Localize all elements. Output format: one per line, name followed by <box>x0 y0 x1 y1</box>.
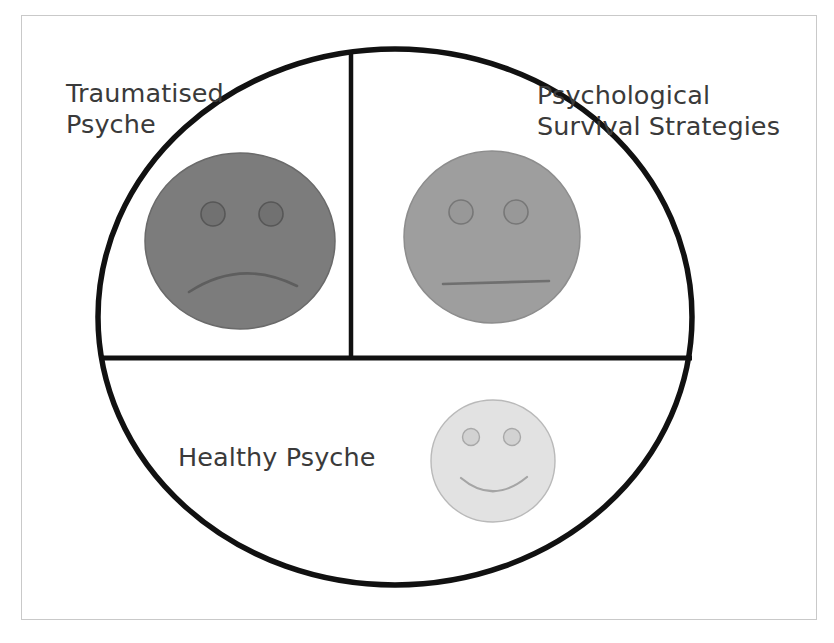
neutral-face <box>404 151 580 323</box>
sad-face-right-eye <box>259 202 283 226</box>
happy-face-head <box>431 400 555 522</box>
label-traumatised-psyche-line1: Traumatised <box>66 78 224 109</box>
happy-face <box>431 400 555 522</box>
label-traumatised-psyche: Traumatised Psyche <box>66 78 224 140</box>
label-psychological-survival-strategies-line2: Survival Strategies <box>537 111 780 142</box>
label-healthy-psyche-line1: Healthy Psyche <box>178 442 376 473</box>
happy-face-left-eye <box>463 429 480 446</box>
neutral-face-left-eye <box>449 200 473 224</box>
label-traumatised-psyche-line2: Psyche <box>66 109 224 140</box>
label-psychological-survival-strategies: Psychological Survival Strategies <box>537 80 780 142</box>
label-psychological-survival-strategies-line1: Psychological <box>537 80 780 111</box>
happy-face-right-eye <box>504 429 521 446</box>
sad-face <box>145 153 335 329</box>
sad-face-left-eye <box>201 202 225 226</box>
neutral-face-head <box>404 151 580 323</box>
sad-face-head <box>145 153 335 329</box>
label-healthy-psyche: Healthy Psyche <box>178 442 376 473</box>
diagram-canvas: Traumatised Psyche Psychological Surviva… <box>0 0 834 643</box>
neutral-face-right-eye <box>504 200 528 224</box>
